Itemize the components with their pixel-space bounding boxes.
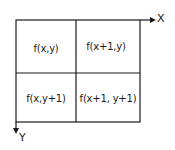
cell-bottom-right: f(x+1, y+1) [80, 93, 137, 104]
cell-top-right: f(x+1,y) [86, 41, 125, 52]
cell-bottom-left: f(x,y+1) [26, 93, 65, 104]
x-axis-arrow-icon [150, 17, 156, 23]
grid-lines [0, 0, 175, 150]
y-axis-label: Y [19, 131, 26, 144]
cell-top-left: f(x,y) [33, 43, 58, 54]
x-axis-label: X [157, 12, 165, 25]
pixel-grid-diagram: X Y f(x,y) f(x+1,y) f(x,y+1) f(x+1, y+1) [0, 0, 175, 150]
grid-border [16, 20, 140, 122]
